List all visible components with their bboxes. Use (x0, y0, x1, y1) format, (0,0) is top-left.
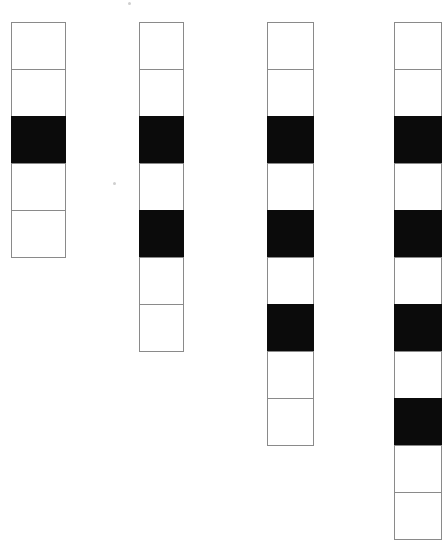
cell-empty[interactable] (139, 163, 184, 211)
cell-empty[interactable] (394, 69, 442, 117)
strip-3[interactable] (267, 22, 314, 445)
speck-mid (113, 182, 116, 185)
strip-4[interactable] (394, 22, 442, 539)
cell-empty[interactable] (11, 69, 66, 117)
strip-2[interactable] (139, 22, 184, 351)
cell-filled[interactable] (267, 210, 314, 258)
cell-empty[interactable] (267, 351, 314, 399)
cell-filled[interactable] (394, 398, 442, 446)
cell-empty[interactable] (11, 163, 66, 211)
figure-canvas (0, 0, 447, 554)
cell-empty[interactable] (11, 22, 66, 70)
strip-1[interactable] (11, 22, 66, 257)
cell-filled[interactable] (267, 116, 314, 164)
cell-empty[interactable] (267, 398, 314, 446)
cell-filled[interactable] (267, 304, 314, 352)
cell-empty[interactable] (139, 69, 184, 117)
cell-empty[interactable] (11, 210, 66, 258)
cell-filled[interactable] (11, 116, 66, 164)
cell-filled[interactable] (139, 116, 184, 164)
cell-empty[interactable] (139, 304, 184, 352)
cell-empty[interactable] (267, 257, 314, 305)
cell-empty[interactable] (394, 351, 442, 399)
cell-empty[interactable] (139, 22, 184, 70)
cell-empty[interactable] (394, 22, 442, 70)
cell-empty[interactable] (139, 257, 184, 305)
cell-filled[interactable] (394, 304, 442, 352)
speck-top (128, 2, 131, 5)
cell-empty[interactable] (394, 163, 442, 211)
cell-filled[interactable] (139, 210, 184, 258)
cell-filled[interactable] (394, 210, 442, 258)
cell-empty[interactable] (394, 492, 442, 540)
cell-empty[interactable] (267, 163, 314, 211)
cell-empty[interactable] (267, 22, 314, 70)
cell-empty[interactable] (394, 445, 442, 493)
cell-filled[interactable] (394, 116, 442, 164)
cell-empty[interactable] (267, 69, 314, 117)
cell-empty[interactable] (394, 257, 442, 305)
